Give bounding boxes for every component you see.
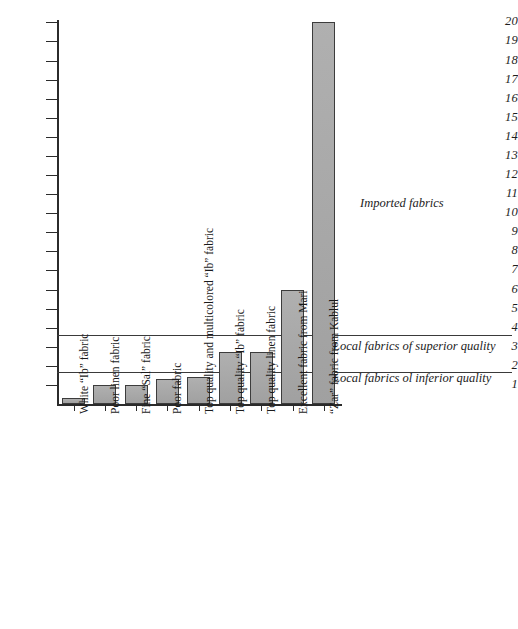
y-tick-5 bbox=[46, 309, 57, 310]
y-tick-13 bbox=[46, 156, 57, 157]
annotation-local-inferior-quality: Local fabrics ol inferior quality bbox=[333, 372, 491, 385]
y-tick-12 bbox=[46, 175, 57, 176]
y-tick-label-9: 9 bbox=[476, 225, 518, 237]
y-tick-label-17: 17 bbox=[476, 73, 518, 85]
y-tick-15 bbox=[46, 118, 57, 119]
y-tick-1 bbox=[46, 385, 57, 386]
y-tick-label-14: 14 bbox=[476, 130, 518, 142]
y-tick-9 bbox=[46, 232, 57, 233]
x-tick bbox=[324, 406, 325, 411]
x-tick bbox=[105, 406, 106, 411]
x-tick bbox=[74, 406, 75, 411]
y-tick-label-8: 8 bbox=[476, 244, 518, 256]
x-axis-label: “Zar” fabric from Kablul bbox=[329, 299, 341, 414]
y-tick-19 bbox=[46, 41, 57, 42]
x-tick bbox=[136, 406, 137, 411]
x-tick bbox=[293, 406, 294, 411]
y-tick-2 bbox=[46, 366, 57, 367]
y-tick-label-19: 19 bbox=[476, 34, 518, 46]
y-tick-label-15: 15 bbox=[476, 111, 518, 123]
y-tick-18 bbox=[46, 61, 57, 62]
y-tick-label-6: 6 bbox=[476, 283, 518, 295]
y-tick-14 bbox=[46, 137, 57, 138]
x-axis-label: Fine “Sal” fabric bbox=[141, 336, 153, 414]
x-axis-label: Poor fabric bbox=[172, 363, 184, 414]
x-axis-label: Poor linen fabric bbox=[110, 337, 122, 414]
x-axis-label: Excellent fabric from Mari bbox=[298, 290, 310, 414]
y-tick-label-5: 5 bbox=[476, 302, 518, 314]
y-tick-3 bbox=[46, 347, 57, 348]
y-tick-17 bbox=[46, 80, 57, 81]
x-axis-label: Top quality “Ib” fabric bbox=[235, 309, 247, 414]
x-tick bbox=[230, 406, 231, 411]
x-tick bbox=[167, 406, 168, 411]
x-axis-label: White “Ib” fabric bbox=[79, 334, 91, 414]
x-tick bbox=[261, 406, 262, 411]
y-tick-label-2: 2 bbox=[476, 359, 518, 371]
y-tick-label-13: 13 bbox=[476, 149, 518, 161]
y-tick-20 bbox=[46, 22, 57, 23]
y-axis-line bbox=[57, 20, 59, 406]
y-tick-label-4: 4 bbox=[476, 321, 518, 333]
y-tick-label-20: 20 bbox=[476, 15, 518, 27]
y-tick-6 bbox=[46, 290, 57, 291]
y-tick-10 bbox=[46, 213, 57, 214]
y-tick-label-12: 12 bbox=[476, 168, 518, 180]
chart-canvas: 1234567891011121314151617181920 White “I… bbox=[0, 0, 518, 629]
y-tick-4 bbox=[46, 328, 57, 329]
y-tick-label-10: 10 bbox=[476, 206, 518, 218]
y-tick-label-11: 11 bbox=[476, 187, 518, 199]
x-axis-label: Top quality and multicolored “Ib” fabric bbox=[204, 228, 216, 414]
y-tick-7 bbox=[46, 270, 57, 271]
x-axis-label: Top quality linen fabric bbox=[266, 306, 278, 414]
annotation-local-superior-quality: Local fabrics of superior quality bbox=[333, 340, 496, 353]
y-tick-label-18: 18 bbox=[476, 54, 518, 66]
y-tick-11 bbox=[46, 194, 57, 195]
annotation-imported-fabrics: Imported fabrics bbox=[360, 197, 444, 210]
y-tick-label-7: 7 bbox=[476, 263, 518, 275]
y-tick-16 bbox=[46, 99, 57, 100]
x-tick bbox=[199, 406, 200, 411]
y-tick-8 bbox=[46, 251, 57, 252]
y-tick-label-16: 16 bbox=[476, 92, 518, 104]
